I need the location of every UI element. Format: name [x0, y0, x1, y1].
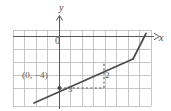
x-axis [13, 33, 160, 40]
coordinate-plane [0, 0, 171, 111]
rise-label: 2 [105, 71, 110, 80]
origin-label: 0 [55, 36, 60, 46]
plotted-line [34, 34, 146, 104]
x-axis-label: x [159, 33, 163, 43]
y-axis-label: y [59, 3, 63, 13]
run-label: 3 [68, 85, 73, 94]
grid-vertical-lines [13, 30, 151, 106]
intercept-point-label: (0, −4) [22, 71, 48, 80]
graph-figure: y x 0 (0, −4) 2 3 [0, 0, 171, 111]
